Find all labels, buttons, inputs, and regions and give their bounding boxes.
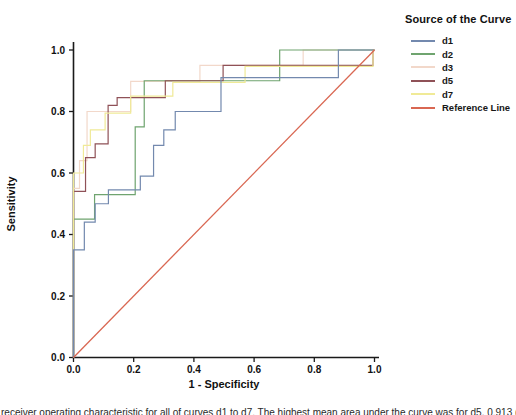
y-tick-label: 0.0 <box>51 352 65 363</box>
y-tick-label: 0.6 <box>51 168 65 179</box>
roc-curves <box>74 50 375 358</box>
roc-figure: 0.00.20.40.60.81.00.00.20.40.60.81.0 1 -… <box>0 0 516 415</box>
y-tick-label: 0.8 <box>51 106 65 117</box>
axis-ticks: 0.00.20.40.60.81.00.00.20.40.60.81.0 <box>51 45 382 376</box>
legend-item-d1: d1 <box>405 34 515 47</box>
legend-swatch <box>411 107 435 109</box>
legend-item-d7: d7 <box>405 88 515 101</box>
y-tick-label: 0.4 <box>51 229 65 240</box>
y-tick-label: 0.2 <box>51 291 65 302</box>
legend-item-d3: d3 <box>405 61 515 74</box>
legend-item-d5: d5 <box>405 74 515 87</box>
legend-swatch <box>411 40 435 42</box>
x-tick-label: 0.0 <box>67 364 81 375</box>
legend: Source of the Curve d1d2d3d5d7Reference … <box>405 13 515 114</box>
legend-label: d5 <box>442 75 453 86</box>
y-tick-label: 1.0 <box>51 45 65 56</box>
legend-label: d3 <box>442 62 453 73</box>
legend-items: d1d2d3d5d7Reference Line <box>405 34 515 114</box>
legend-item-reference-line: Reference Line <box>405 101 515 114</box>
x-tick-label: 0.8 <box>307 364 321 375</box>
x-tick-label: 0.2 <box>127 364 141 375</box>
legend-label: d7 <box>442 89 453 100</box>
legend-swatch <box>411 93 435 95</box>
figure-caption-clipped: receiver operating characteristic for al… <box>1 407 516 415</box>
legend-swatch <box>411 53 435 55</box>
x-tick-label: 0.4 <box>187 364 201 375</box>
x-tick-label: 1.0 <box>368 364 382 375</box>
legend-item-d2: d2 <box>405 47 515 60</box>
legend-title: Source of the Curve <box>405 13 515 25</box>
y-axis-title: Sensitivity <box>5 176 17 232</box>
legend-swatch <box>411 80 435 82</box>
legend-label: d2 <box>442 49 453 60</box>
curve-reference-line <box>74 50 375 358</box>
legend-swatch <box>411 66 435 68</box>
x-tick-label: 0.6 <box>247 364 261 375</box>
legend-label: Reference Line <box>442 102 510 113</box>
x-axis-title: 1 - Specificity <box>189 378 261 390</box>
legend-label: d1 <box>442 35 453 46</box>
